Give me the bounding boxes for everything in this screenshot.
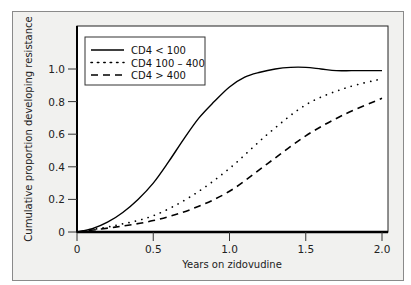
x-tick-label: 2.0 bbox=[374, 243, 391, 255]
y-tick-label: 0.4 bbox=[48, 161, 65, 173]
y-tick-label: 0.6 bbox=[48, 128, 65, 140]
y-ticks: 00.20.40.60.81.0 bbox=[48, 63, 77, 238]
legend-label-cd4-gt-400: CD4 > 400 bbox=[131, 70, 186, 81]
x-tick-label: 0 bbox=[74, 243, 81, 255]
y-tick-label: 0 bbox=[58, 226, 65, 238]
y-axis-title: Cumulative proportion developing resista… bbox=[23, 16, 34, 241]
chart-svg: 00.20.40.60.81.0 00.51.01.52.0 Years on … bbox=[0, 0, 411, 285]
x-tick-label: 1.5 bbox=[297, 243, 314, 255]
y-tick-label: 0.2 bbox=[48, 193, 65, 205]
legend-label-cd4-100-400: CD4 100 – 400 bbox=[131, 58, 205, 69]
x-axis-title: Years on zidovudine bbox=[181, 259, 282, 270]
y-tick-label: 0.8 bbox=[48, 96, 65, 108]
y-tick-label: 1.0 bbox=[48, 63, 65, 75]
legend: CD4 < 100 CD4 100 – 400 CD4 > 400 bbox=[85, 37, 205, 85]
legend-label-cd4-lt-100: CD4 < 100 bbox=[131, 45, 186, 56]
x-tick-label: 0.5 bbox=[145, 243, 162, 255]
x-ticks: 00.51.01.52.0 bbox=[74, 232, 391, 255]
x-tick-label: 1.0 bbox=[221, 243, 238, 255]
